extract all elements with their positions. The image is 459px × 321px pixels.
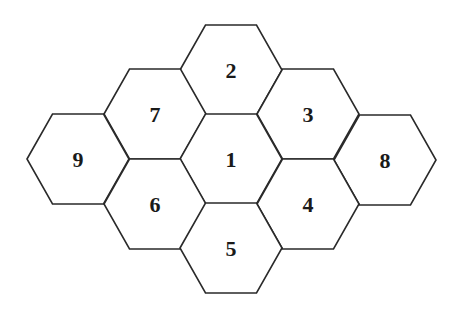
hexagon-label-2: 2 xyxy=(226,58,237,83)
hexagon-label-3: 3 xyxy=(303,102,314,127)
hexagon-label-1: 1 xyxy=(226,147,237,172)
hexagon-label-8: 8 xyxy=(380,148,391,173)
hexagon-grid-diagram: 273918645 xyxy=(0,0,459,321)
hexagon-label-4: 4 xyxy=(303,192,314,217)
hexagon-label-7: 7 xyxy=(150,102,161,127)
hexagon-label-6: 6 xyxy=(150,192,161,217)
hexagon-label-5: 5 xyxy=(226,236,237,261)
hexagon-label-9: 9 xyxy=(73,147,84,172)
